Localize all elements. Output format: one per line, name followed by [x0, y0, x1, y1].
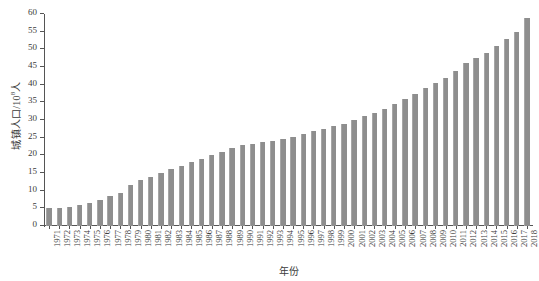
bar — [107, 196, 112, 226]
x-tick-label: 2011 — [459, 230, 468, 247]
y-axis-title-exponent: 8 — [9, 91, 17, 95]
bar — [311, 131, 316, 226]
bar — [290, 137, 295, 226]
y-axis-title-unit: 人 — [11, 81, 22, 91]
bar — [250, 144, 255, 226]
x-tick — [293, 226, 294, 229]
bar — [372, 113, 377, 226]
bar — [463, 63, 468, 226]
x-tick-label: 1976 — [103, 230, 112, 247]
x-tick — [130, 226, 131, 229]
bar — [240, 145, 245, 226]
y-tick-label: 60 — [28, 7, 37, 18]
x-tick — [59, 226, 60, 229]
x-tick-label: 1975 — [93, 230, 102, 247]
x-tick — [273, 226, 274, 229]
bar — [280, 139, 285, 226]
bar — [219, 152, 224, 226]
x-tick-label: 2009 — [439, 230, 448, 247]
x-tick — [49, 226, 50, 229]
x-tick-label: 2013 — [480, 230, 489, 247]
bar — [168, 169, 173, 226]
x-tick-label: 1988 — [225, 230, 234, 247]
bars-layer — [44, 14, 532, 226]
x-tick — [334, 226, 335, 229]
x-tick — [151, 226, 152, 229]
x-axis-title: 年份 — [44, 263, 533, 278]
x-tick — [527, 226, 528, 229]
y-tick-label: 25 — [28, 131, 37, 142]
y-tick-label: 50 — [28, 42, 37, 53]
x-tick-label: 1982 — [164, 230, 173, 247]
bar — [301, 134, 306, 226]
x-tick — [69, 226, 70, 229]
bar — [46, 208, 51, 226]
x-tick — [181, 226, 182, 229]
x-tick-label: 1980 — [144, 230, 153, 247]
x-tick-label: 1998 — [327, 230, 336, 247]
x-tick-label: 1974 — [83, 230, 92, 247]
x-tick — [446, 226, 447, 229]
bar — [67, 207, 72, 226]
y-tick-label: 20 — [28, 148, 37, 159]
bar — [412, 94, 417, 227]
x-tick-label: 1992 — [266, 230, 275, 247]
x-tick-label: 1973 — [73, 230, 82, 247]
x-tick-label: 2004 — [388, 230, 397, 247]
x-tick-label: 2008 — [429, 230, 438, 247]
x-tick-label: 1989 — [236, 230, 245, 247]
bar — [158, 173, 163, 226]
bar — [443, 78, 448, 226]
x-tick-label: 1981 — [154, 230, 163, 247]
bar — [433, 83, 438, 226]
x-tick — [507, 226, 508, 229]
x-tick-label: 1995 — [297, 230, 306, 247]
x-tick-label: 2007 — [419, 230, 428, 247]
x-tick-label: 2010 — [449, 230, 458, 247]
x-tick-label: 2005 — [398, 230, 407, 247]
bar — [138, 180, 143, 226]
y-tick-label: 55 — [28, 25, 37, 36]
bar — [382, 109, 387, 226]
x-tick — [385, 226, 386, 229]
x-tick-label: 1990 — [246, 230, 255, 247]
bar — [148, 177, 153, 226]
x-tick — [252, 226, 253, 229]
x-tick — [212, 226, 213, 229]
x-tick — [263, 226, 264, 229]
x-tick — [202, 226, 203, 229]
x-tick-label: 1977 — [114, 230, 123, 247]
x-tick — [415, 226, 416, 229]
x-tick-label: 1979 — [134, 230, 143, 247]
x-tick — [476, 226, 477, 229]
x-tick-label: 2002 — [368, 230, 377, 247]
x-tick — [141, 226, 142, 229]
x-tick-label: 1984 — [185, 230, 194, 247]
x-tick-label: 1971 — [53, 230, 62, 247]
x-tick — [171, 226, 172, 229]
x-tick-label: 1986 — [205, 230, 214, 247]
y-tick-label: 5 — [33, 201, 38, 212]
x-tick — [425, 226, 426, 229]
x-tick — [120, 226, 121, 229]
bar — [97, 200, 102, 227]
bar — [484, 53, 489, 226]
x-tick — [435, 226, 436, 229]
x-tick-label: 1983 — [175, 230, 184, 247]
bar — [260, 142, 265, 226]
bar — [392, 104, 397, 226]
x-tick-label: 2015 — [500, 230, 509, 247]
x-tick — [80, 226, 81, 229]
bar — [473, 58, 478, 226]
x-tick-label: 1997 — [317, 230, 326, 247]
y-tick-label: 0 — [33, 219, 38, 230]
x-tick — [364, 226, 365, 229]
x-tick — [374, 226, 375, 229]
x-tick — [110, 226, 111, 229]
bar — [321, 129, 326, 226]
bar — [494, 46, 499, 226]
y-tick-label: 40 — [28, 78, 37, 89]
x-tick-label: 2006 — [408, 230, 417, 247]
bar — [87, 203, 92, 226]
